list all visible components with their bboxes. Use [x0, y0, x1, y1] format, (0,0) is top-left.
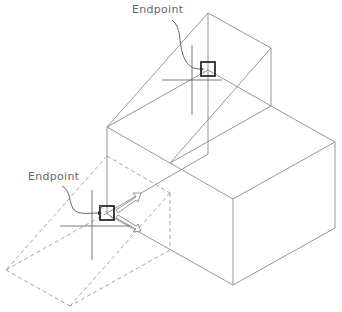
direction-arrow-down-right-icon	[116, 215, 141, 232]
crosshair-top	[162, 45, 222, 115]
direction-arrow-up-right-icon	[116, 193, 141, 213]
solid-geometry	[107, 13, 335, 285]
drawing-canvas[interactable]	[0, 0, 342, 312]
leader-arrow-top-icon	[200, 67, 204, 71]
endpoint-label-top: Endpoint	[132, 3, 183, 16]
leader-bottom	[62, 186, 98, 213]
endpoint-label-bottom: Endpoint	[28, 170, 79, 183]
